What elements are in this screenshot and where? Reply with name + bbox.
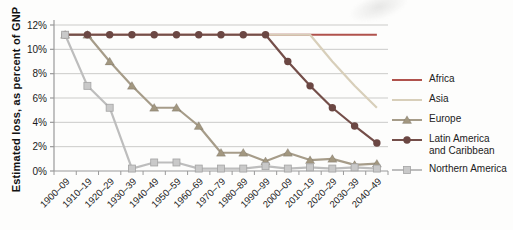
legend-label-northern-america: Northern America: [429, 163, 507, 175]
circle-marker: [306, 82, 313, 89]
legend-swatch-latin-america-and-caribbean: [391, 134, 423, 146]
legend-item-asia: Asia: [391, 93, 507, 106]
legend-label-asia: Asia: [429, 93, 448, 105]
square-marker: [151, 159, 158, 166]
square-marker: [404, 167, 411, 174]
square-marker: [195, 165, 202, 172]
circle-marker: [217, 31, 224, 38]
y-tick-label: 8%: [33, 68, 48, 79]
legend-item-northern-america: Northern America: [391, 163, 507, 176]
square-marker: [106, 104, 113, 111]
square-marker: [128, 165, 135, 172]
series-latin-america-and-caribbean: [61, 31, 380, 147]
circle-marker: [173, 31, 180, 38]
circle-marker: [262, 31, 269, 38]
series-asia-line: [65, 35, 377, 108]
legend: AfricaAsiaEuropeLatin Americaand Caribbe…: [391, 73, 507, 176]
circle-marker: [240, 31, 247, 38]
circle-marker: [284, 58, 291, 65]
legend-label-africa: Africa: [429, 73, 455, 85]
y-tick-label: 0%: [33, 166, 48, 177]
legend-swatch-northern-america: [391, 164, 423, 176]
square-marker: [307, 164, 314, 171]
circle-marker: [329, 104, 336, 111]
chart-figure: Estimated loss, as percent of GNP 0%2%4%…: [0, 0, 513, 230]
legend-label-europe: Europe: [429, 113, 461, 125]
square-marker: [62, 31, 69, 38]
circle-marker: [373, 139, 380, 146]
series-asia: [65, 35, 377, 108]
square-marker: [84, 82, 91, 89]
y-tick-label: 2%: [33, 141, 48, 152]
legend-swatch-europe: [391, 114, 423, 126]
y-tick-label: 12%: [27, 20, 47, 31]
circle-marker: [403, 136, 410, 143]
circle-marker: [106, 31, 113, 38]
square-marker: [329, 165, 336, 172]
y-tick-label: 6%: [33, 93, 48, 104]
circle-marker: [351, 122, 358, 129]
square-marker: [284, 165, 291, 172]
square-marker: [240, 165, 247, 172]
legend-item-europe: Europe: [391, 113, 507, 126]
square-marker: [218, 165, 225, 172]
circle-marker: [84, 31, 91, 38]
circle-marker: [195, 31, 202, 38]
legend-label-line: Northern America: [429, 163, 507, 175]
square-marker: [351, 164, 358, 171]
series-europe-line: [65, 35, 377, 165]
triangle-marker: [283, 148, 292, 156]
circle-marker: [128, 31, 135, 38]
circle-marker: [151, 31, 158, 38]
legend-label-latin-america-and-caribbean: Latin Americaand Caribbean: [429, 133, 495, 156]
legend-item-latin-america-and-caribbean: Latin Americaand Caribbean: [391, 133, 507, 156]
legend-label-line: Asia: [429, 93, 448, 105]
square-marker: [262, 163, 269, 170]
legend-item-africa: Africa: [391, 73, 507, 86]
legend-label-line: Europe: [429, 113, 461, 125]
series-europe: [61, 30, 382, 168]
legend-label-line: Latin America: [429, 133, 495, 145]
square-marker: [373, 165, 380, 172]
legend-label-line: Africa: [429, 73, 455, 85]
legend-swatch-africa: [391, 74, 423, 86]
y-tick-label: 10%: [27, 44, 47, 55]
series-latin-america-and-caribbean-line: [65, 35, 377, 143]
y-tick-label: 4%: [33, 117, 48, 128]
legend-label-line: and Caribbean: [429, 145, 495, 157]
square-marker: [173, 159, 180, 166]
legend-swatch-asia: [391, 94, 423, 106]
